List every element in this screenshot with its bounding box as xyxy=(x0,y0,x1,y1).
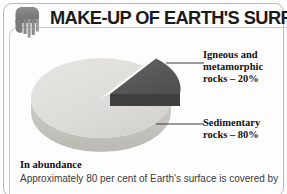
pie-slice-igneous-side xyxy=(110,94,180,106)
footer-body-text: Approximately 80 per cent of Earth's sur… xyxy=(20,172,276,185)
callout-sedimentary-line1: Sedimentary xyxy=(203,117,260,129)
callout-igneous-line1: Igneous and xyxy=(203,49,263,61)
header: MAKE-UP OF EARTH'S SURFACE xyxy=(46,5,287,29)
footer: In abundance Approximately 80 per cent o… xyxy=(20,158,276,185)
callout-sedimentary: Sedimentary rocks – 80% xyxy=(203,117,260,141)
callout-igneous-line2: metamorphic xyxy=(203,61,263,73)
callout-igneous-line3: rocks – 20% xyxy=(203,73,263,85)
hand-bars-icon xyxy=(12,6,44,40)
footer-heading: In abundance xyxy=(20,158,276,171)
page-title: MAKE-UP OF EARTH'S SURFACE xyxy=(50,8,287,27)
infographic-card: MAKE-UP OF EARTH'S SURFACE xyxy=(0,0,287,194)
callout-sedimentary-line2: rocks – 80% xyxy=(203,129,260,141)
callout-igneous: Igneous and metamorphic rocks – 20% xyxy=(203,49,263,84)
